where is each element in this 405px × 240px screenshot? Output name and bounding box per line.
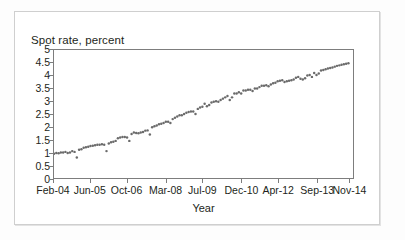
data-point — [89, 145, 91, 147]
data-point — [345, 63, 347, 65]
data-point — [139, 131, 141, 133]
data-point — [240, 92, 242, 94]
data-point — [126, 136, 128, 138]
x-axis-tick-label: Feb-04 — [36, 184, 69, 196]
data-point — [197, 108, 199, 110]
x-axis-tick-label: Oct-06 — [111, 184, 143, 196]
data-point — [110, 141, 112, 143]
data-point — [78, 149, 80, 151]
x-axis-tick-labels: Feb-04Jun-05Oct-06Mar-08Jul-09Dec-10Apr-… — [33, 184, 373, 200]
figure-frame: Spot rate, percent 00.511.522.533.544.55… — [14, 11, 380, 225]
data-point — [101, 143, 103, 145]
data-point — [292, 78, 294, 80]
data-point — [276, 80, 278, 82]
x-axis-title: Year — [53, 202, 354, 214]
data-point — [302, 78, 304, 80]
data-point — [64, 151, 66, 153]
data-point — [231, 96, 233, 98]
x-axis-tick-mark — [349, 179, 350, 183]
data-point — [229, 99, 231, 101]
y-axis-tick-label: 2.5 — [35, 108, 50, 120]
data-point — [215, 100, 217, 102]
data-point — [133, 131, 135, 133]
data-point — [279, 79, 281, 81]
data-point — [71, 150, 73, 152]
x-axis-tick-label: Jun-05 — [74, 184, 106, 196]
data-point — [183, 113, 185, 115]
data-point — [114, 140, 116, 142]
data-point — [224, 96, 226, 98]
data-point — [153, 125, 155, 127]
data-point — [192, 110, 194, 112]
data-point — [151, 126, 153, 128]
data-point — [327, 67, 329, 69]
data-point — [256, 87, 258, 89]
x-axis-tick-mark — [241, 179, 242, 183]
data-point — [297, 76, 299, 78]
data-point — [155, 124, 157, 126]
data-point — [249, 88, 251, 90]
data-point — [313, 72, 315, 74]
data-point — [137, 132, 139, 134]
data-point — [144, 129, 146, 131]
data-point — [117, 137, 119, 139]
data-point — [169, 122, 171, 124]
data-point — [128, 140, 130, 142]
x-axis-tick-mark — [202, 179, 203, 183]
data-point — [347, 62, 349, 64]
data-point — [299, 77, 301, 79]
x-axis-tick-label: Nov-14 — [332, 184, 366, 196]
data-point — [201, 106, 203, 108]
data-point — [288, 79, 290, 81]
y-axis-tick-label: 1.5 — [35, 134, 50, 146]
scatter-series — [54, 50, 353, 178]
data-point — [210, 101, 212, 103]
x-axis-tick-label: Apr-12 — [262, 184, 294, 196]
x-axis-tick-label: Sep-13 — [300, 184, 334, 196]
data-point — [85, 146, 87, 148]
data-point — [176, 115, 178, 117]
data-point — [103, 143, 105, 145]
data-point — [270, 83, 272, 85]
x-axis-tick-mark — [53, 179, 54, 183]
x-axis-tick-label: Jul-09 — [188, 184, 217, 196]
data-point — [92, 145, 94, 147]
data-point — [244, 89, 246, 91]
data-point — [338, 64, 340, 66]
data-point — [57, 152, 59, 154]
data-point — [258, 86, 260, 88]
data-point — [322, 69, 324, 71]
y-axis-tick-label: 3.5 — [35, 82, 50, 94]
data-point — [194, 113, 196, 115]
chart-screenshot: Spot rate, percent 00.511.522.533.544.55… — [0, 0, 405, 240]
data-point — [208, 104, 210, 106]
data-point — [217, 100, 219, 102]
data-point — [69, 151, 71, 153]
data-point — [130, 133, 132, 135]
data-point — [167, 120, 169, 122]
data-point — [233, 92, 235, 94]
x-axis-tick-mark — [90, 179, 91, 183]
x-axis-tick-mark — [278, 179, 279, 183]
data-point — [98, 143, 100, 145]
data-point — [308, 74, 310, 76]
data-point — [171, 118, 173, 120]
data-point — [343, 63, 345, 65]
data-point — [135, 132, 137, 134]
data-point — [290, 79, 292, 81]
data-point — [108, 142, 110, 144]
data-point — [340, 64, 342, 66]
data-point — [242, 89, 244, 91]
data-point — [158, 123, 160, 125]
x-axis-tick-mark — [317, 179, 318, 183]
data-point — [160, 122, 162, 124]
data-point — [283, 81, 285, 83]
data-point — [281, 79, 283, 81]
data-point — [94, 144, 96, 146]
data-point — [119, 136, 121, 138]
data-point — [263, 85, 265, 87]
data-point — [142, 131, 144, 133]
data-point — [80, 148, 82, 150]
data-point — [149, 133, 151, 135]
data-point — [185, 111, 187, 113]
